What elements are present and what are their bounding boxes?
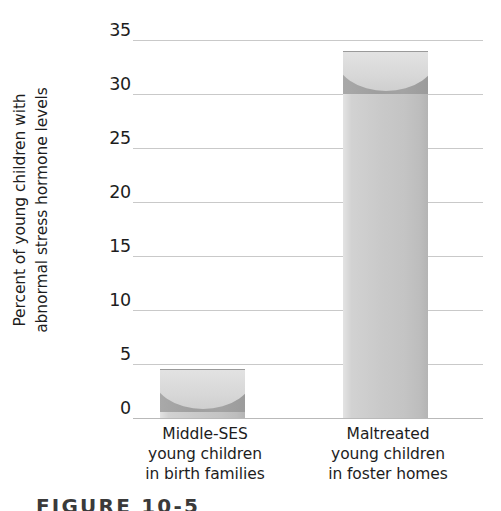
x-axis-label-2-line-1: Maltreated	[303, 425, 473, 445]
y-tick-label-30: 30	[85, 76, 131, 94]
figure-bar-chart: Percent of young children with abnormal …	[0, 0, 501, 511]
gridline-30	[133, 94, 483, 95]
y-tick-label-10: 10	[85, 292, 131, 310]
y-tick-label-25: 25	[85, 130, 131, 148]
bar-maltreated-young-children-in-foster-homes[interactable]	[343, 51, 428, 418]
x-axis-label-group-2: Maltreated young children in foster home…	[303, 425, 473, 484]
gridline-20	[133, 202, 483, 203]
x-axis-label-1-line-2: young children	[120, 445, 290, 465]
x-axis-label-2-line-3: in foster homes	[303, 465, 473, 485]
y-tick-label-0: 0	[85, 400, 131, 418]
gridline-15	[133, 256, 483, 257]
x-axis-label-1-line-1: Middle-SES	[120, 425, 290, 445]
y-tick-label-35: 35	[85, 22, 131, 40]
gridline-35	[133, 40, 483, 41]
x-axis-label-group-1: Middle-SES young children in birth famil…	[120, 425, 290, 484]
figure-caption: FIGURE 10-5	[36, 494, 466, 511]
bar-top-edge	[343, 51, 428, 52]
y-axis-title-line-1: Percent of young children with	[9, 87, 31, 333]
y-tick-label-5: 5	[85, 346, 131, 364]
bar-middle-ses-young-children-in-birth-families[interactable]	[160, 369, 245, 418]
bar-top-edge	[160, 369, 245, 370]
x-axis-baseline	[133, 418, 483, 419]
gridline-10	[133, 310, 483, 311]
y-axis-title-line-2: abnormal stress hormone levels	[31, 87, 53, 333]
plot-area	[133, 40, 483, 418]
x-axis-label-2-line-2: young children	[303, 445, 473, 465]
y-tick-label-20: 20	[85, 184, 131, 202]
x-axis-label-1-line-3: in birth families	[120, 465, 290, 485]
y-tick-label-15: 15	[85, 238, 131, 256]
y-axis-title: Percent of young children with abnormal …	[0, 0, 62, 420]
gridline-25	[133, 148, 483, 149]
gridline-5	[133, 364, 483, 365]
